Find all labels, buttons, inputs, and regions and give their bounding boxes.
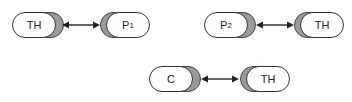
node-subscript: 1 xyxy=(129,21,133,30)
node-label-box: C xyxy=(149,66,193,92)
node-label-box: TH xyxy=(300,12,344,38)
node-label-box: TH xyxy=(246,66,290,92)
node-c: C xyxy=(149,66,199,92)
node-label: TH xyxy=(315,19,330,31)
node-label: P xyxy=(220,19,227,31)
node-p1: P1 xyxy=(100,12,150,38)
node-th-3: TH xyxy=(240,66,290,92)
node-label: TH xyxy=(261,73,276,85)
node-label: C xyxy=(167,73,175,85)
node-th-2: TH xyxy=(294,12,344,38)
bidirectional-arrow-icon xyxy=(256,20,294,30)
bidirectional-arrow-icon xyxy=(201,74,239,84)
node-p2: P2 xyxy=(204,12,254,38)
node-label-box: P2 xyxy=(204,12,248,38)
bidirectional-arrow-icon xyxy=(62,20,100,30)
node-label: TH xyxy=(27,19,42,31)
node-label-box: P1 xyxy=(106,12,150,38)
node-label: P xyxy=(122,19,129,31)
node-th-1: TH xyxy=(12,12,62,38)
node-label-box: TH xyxy=(12,12,56,38)
node-subscript: 2 xyxy=(227,21,231,30)
